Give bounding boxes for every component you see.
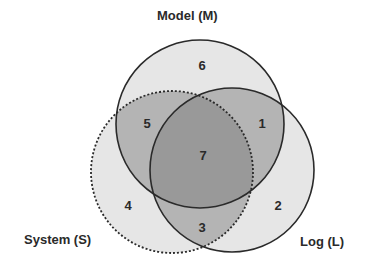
set-label-model: Model (M) bbox=[157, 8, 218, 23]
region-m-l: 1 bbox=[258, 116, 265, 131]
region-s-l: 3 bbox=[198, 220, 205, 235]
region-l-only: 2 bbox=[274, 198, 281, 213]
region-s-only: 4 bbox=[124, 198, 132, 213]
set-label-system: System (S) bbox=[24, 232, 91, 247]
region-m-only: 6 bbox=[198, 58, 205, 73]
region-m-s-l: 7 bbox=[199, 148, 206, 163]
venn-diagram: Model (M) System (S) Log (L) 6 1 2 3 4 5… bbox=[0, 0, 376, 275]
region-m-s: 5 bbox=[143, 116, 150, 131]
set-label-log: Log (L) bbox=[300, 234, 344, 249]
